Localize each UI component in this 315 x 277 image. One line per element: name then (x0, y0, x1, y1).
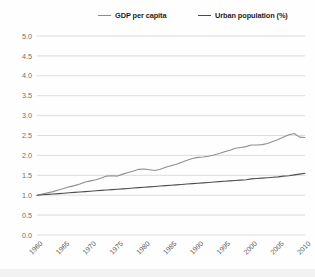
svg-text:1970: 1970 (81, 240, 97, 256)
svg-text:2.5: 2.5 (22, 131, 32, 140)
svg-text:1.5: 1.5 (22, 171, 32, 180)
footer-band (0, 269, 315, 277)
svg-text:1995: 1995 (215, 240, 231, 256)
svg-text:3.0: 3.0 (22, 111, 32, 120)
svg-text:5.0: 5.0 (22, 32, 32, 41)
svg-text:1985: 1985 (162, 240, 178, 256)
svg-text:2010: 2010 (296, 240, 312, 256)
svg-text:4.5: 4.5 (22, 52, 32, 61)
svg-text:2005: 2005 (269, 240, 285, 256)
series-line-urban-population (37, 173, 305, 195)
series-line-gdp-per-capita (37, 134, 305, 196)
svg-text:0.5: 0.5 (22, 211, 32, 220)
svg-text:1965: 1965 (55, 240, 71, 256)
svg-text:3.5: 3.5 (22, 91, 32, 100)
svg-text:0.0: 0.0 (22, 231, 32, 240)
svg-text:1980: 1980 (135, 240, 151, 256)
svg-text:2.0: 2.0 (22, 151, 32, 160)
svg-text:1990: 1990 (189, 240, 205, 256)
svg-text:1.0: 1.0 (22, 191, 32, 200)
svg-text:1960: 1960 (28, 240, 44, 256)
y-axis-tick-labels: 5.04.54.03.53.02.52.01.51.00.50.0 (22, 32, 32, 240)
gridlines (37, 36, 305, 235)
svg-text:4.0: 4.0 (22, 71, 32, 80)
plot-area: 5.04.54.03.53.02.52.01.51.00.50.0 196019… (0, 0, 315, 277)
svg-text:1975: 1975 (108, 240, 124, 256)
x-axis-tick-labels: 1960196519701975198019851990199520002005… (28, 240, 312, 256)
chart-container: GDP per capita Urban population (%) 5.04… (0, 0, 315, 277)
svg-text:2000: 2000 (242, 240, 258, 256)
